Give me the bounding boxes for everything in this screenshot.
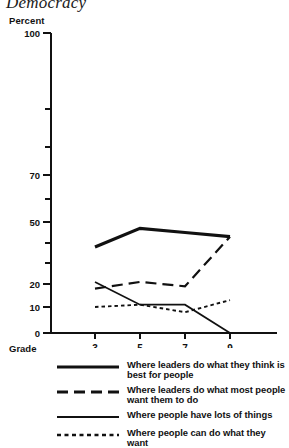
legend-line-swatch-1 (56, 385, 120, 399)
y-tick-label-70: 70 (29, 170, 40, 181)
x-axis: 3579 (51, 333, 277, 348)
x-tick-label-7: 7 (182, 343, 188, 348)
y-tick-label-100: 100 (24, 28, 40, 39)
x-tick-label-3: 3 (92, 343, 98, 348)
legend-label: Where leaders do what most people want t… (127, 385, 289, 406)
y-tick-label-20: 20 (29, 279, 40, 290)
chart-legend: Where leaders do what they think is best… (56, 360, 289, 448)
legend-line-swatch-3 (56, 428, 120, 442)
legend-item: Where people can do what they want (56, 428, 289, 448)
y-tick-label-50: 50 (29, 217, 40, 228)
legend-item: Where leaders do what they think is best… (56, 360, 289, 381)
series-line-1 (95, 237, 230, 289)
legend-label: Where people have lots of things (127, 410, 272, 420)
data-series-group (95, 228, 230, 333)
y-axis: 010205070100 (24, 28, 51, 339)
x-tick-label-9: 9 (227, 343, 233, 348)
series-line-0 (95, 228, 230, 247)
y-tick-label-10: 10 (29, 302, 40, 313)
legend-line-swatch-2 (56, 410, 120, 424)
plot-area: 010205070100 3579 (0, 0, 289, 348)
legend-label: Where people can do what they want (127, 428, 289, 448)
legend-label: Where leaders do what they think is best… (127, 360, 289, 381)
line-chart-svg: 010205070100 3579 (0, 0, 289, 348)
series-line-2 (95, 282, 230, 333)
series-line-3 (95, 300, 230, 312)
legend-item: Where people have lots of things (56, 410, 289, 424)
legend-item: Where leaders do what most people want t… (56, 385, 289, 406)
x-tick-label-5: 5 (137, 343, 143, 348)
legend-line-swatch-0 (56, 360, 120, 374)
y-tick-label-0: 0 (35, 328, 40, 339)
